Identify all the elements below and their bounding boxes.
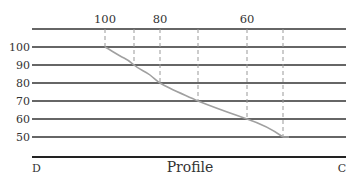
end-label-d: D	[32, 162, 41, 175]
contour-label-100: 100	[94, 12, 116, 26]
elevation-label: 70	[16, 95, 30, 108]
profile-curve	[105, 47, 283, 137]
contour-label-80: 80	[153, 12, 168, 26]
end-label-c: C	[338, 162, 346, 175]
profile-diagram: 100 80 60 100 90 80 70 60 50 D Profile C	[0, 0, 364, 191]
elevation-label: 60	[16, 113, 30, 126]
elevation-label: 50	[16, 131, 30, 144]
contour-label-60: 60	[240, 12, 255, 26]
profile-title: Profile	[167, 159, 214, 175]
elevation-label: 100	[9, 41, 30, 54]
elevation-label: 90	[16, 59, 30, 72]
elevation-label: 80	[16, 77, 30, 90]
elevation-grid	[32, 47, 346, 137]
